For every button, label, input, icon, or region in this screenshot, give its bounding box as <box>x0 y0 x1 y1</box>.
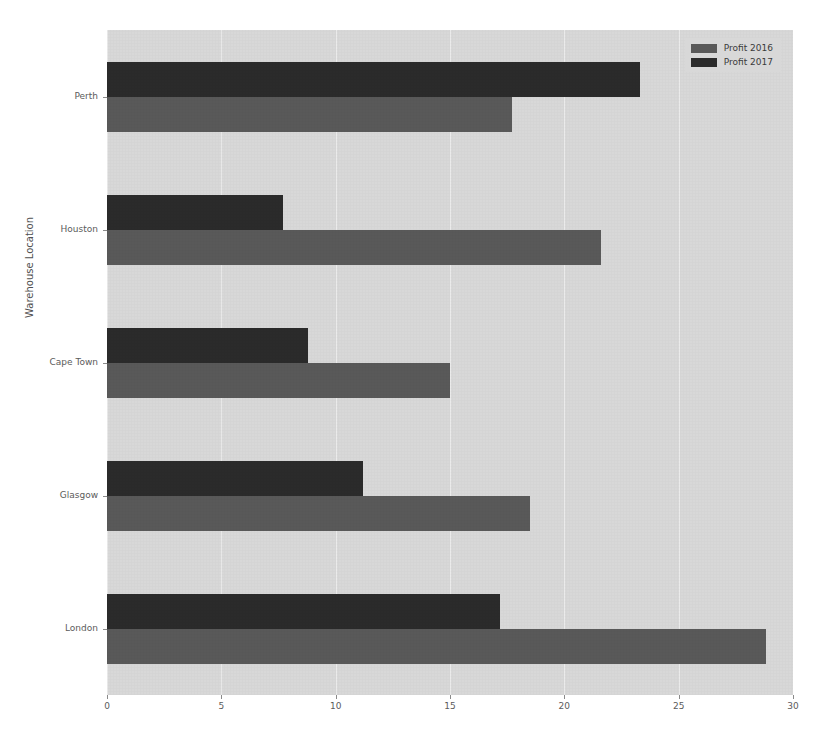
x-tick-label-0: 0 <box>104 701 110 711</box>
x-tick-label-25: 25 <box>673 701 684 711</box>
bar-houston-2016 <box>107 230 601 265</box>
legend-swatch-profit-2016 <box>691 44 717 53</box>
legend-swatch-profit-2017 <box>691 58 717 67</box>
x-tick-mark-20 <box>564 695 565 699</box>
plot-area: Profit 2016 Profit 2017 <box>107 30 793 695</box>
x-tick-label-20: 20 <box>559 701 570 711</box>
x-tick-mark-10 <box>336 695 337 699</box>
y-tick-label-houston: Houston <box>0 224 98 234</box>
x-tick-label-10: 10 <box>330 701 341 711</box>
y-axis-title: Warehouse Location <box>24 217 35 318</box>
y-tick-mark-2 <box>103 363 107 364</box>
gridline-x-25 <box>679 30 680 695</box>
bar-cape-town-2017 <box>107 328 308 363</box>
legend-item-profit-2017: Profit 2017 <box>691 57 773 67</box>
legend: Profit 2016 Profit 2017 <box>685 38 781 72</box>
bar-london-2016 <box>107 629 766 664</box>
bar-houston-2017 <box>107 195 283 230</box>
x-tick-mark-5 <box>221 695 222 699</box>
x-tick-label-15: 15 <box>444 701 455 711</box>
legend-label-profit-2017: Profit 2017 <box>724 57 773 67</box>
legend-item-profit-2016: Profit 2016 <box>691 43 773 53</box>
gridline-x-20 <box>564 30 565 695</box>
y-tick-label-london: London <box>0 623 98 633</box>
y-tick-mark-3 <box>103 230 107 231</box>
legend-label-profit-2016: Profit 2016 <box>724 43 773 53</box>
y-tick-label-cape-town: Cape Town <box>0 357 98 367</box>
y-tick-mark-4 <box>103 97 107 98</box>
bar-london-2017 <box>107 594 500 629</box>
bar-glasgow-2017 <box>107 461 363 496</box>
y-tick-label-perth: Perth <box>0 91 98 101</box>
bar-cape-town-2016 <box>107 363 450 398</box>
x-tick-label-30: 30 <box>787 701 798 711</box>
chart-figure: Profit 2016 Profit 2017 LondonGlasgowCap… <box>0 0 836 756</box>
bar-glasgow-2016 <box>107 496 530 531</box>
bar-perth-2016 <box>107 97 512 132</box>
x-tick-mark-0 <box>107 695 108 699</box>
y-tick-mark-1 <box>103 496 107 497</box>
y-tick-mark-0 <box>103 629 107 630</box>
bar-perth-2017 <box>107 62 640 97</box>
x-tick-label-5: 5 <box>218 701 224 711</box>
x-tick-mark-15 <box>450 695 451 699</box>
x-tick-mark-25 <box>679 695 680 699</box>
x-tick-mark-30 <box>793 695 794 699</box>
y-tick-label-glasgow: Glasgow <box>0 490 98 500</box>
